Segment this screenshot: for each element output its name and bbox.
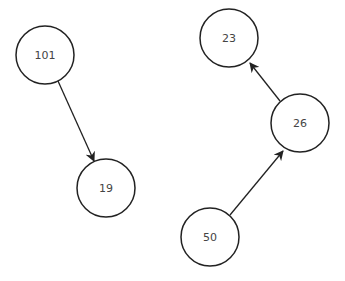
node-50: 50 bbox=[181, 208, 239, 266]
node-19: 19 bbox=[77, 159, 135, 217]
edge-101-to-19 bbox=[58, 81, 94, 161]
edge-26-to-23 bbox=[250, 63, 280, 101]
node-101: 101 bbox=[16, 26, 74, 84]
node-label: 19 bbox=[99, 182, 113, 195]
node-label: 23 bbox=[222, 32, 236, 45]
graph-canvas: 101 19 23 26 50 bbox=[0, 0, 345, 281]
node-label: 50 bbox=[203, 231, 217, 244]
edge-50-to-26 bbox=[230, 151, 283, 215]
node-label: 26 bbox=[293, 117, 307, 130]
node-26: 26 bbox=[271, 94, 329, 152]
node-23: 23 bbox=[200, 9, 258, 67]
node-label: 101 bbox=[35, 49, 56, 62]
